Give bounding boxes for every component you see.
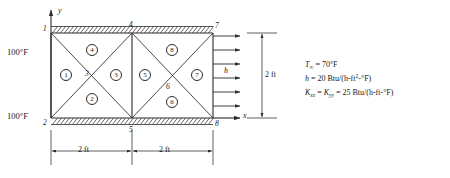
element-3-text: 3 — [114, 71, 118, 79]
convection-exponent: 2 — [356, 73, 359, 79]
y-axis-label: y — [58, 7, 62, 15]
node-label-3: 3 — [85, 70, 89, 78]
x-axis-label: x — [243, 112, 247, 120]
element-5-text: 5 — [143, 71, 147, 79]
element-label-3: 3 — [110, 69, 122, 81]
dimension-label-bottom-right: 2 ft — [159, 146, 170, 154]
left-top-temperature-label: 100°F — [7, 48, 28, 57]
node-label-5: 5 — [129, 126, 133, 134]
bottom-hatched-boundary — [51, 118, 214, 125]
convection-coefficient-label: h — [224, 67, 228, 75]
convection-symbol: h — [305, 74, 309, 83]
element-label-5: 5 — [139, 69, 151, 81]
property-thermal-conductivity: Kxx = Kyy = 25 Btu/(h-ft-°F) — [305, 86, 393, 100]
conductivity-x-subscript: xx — [310, 92, 315, 98]
node-label-6: 6 — [166, 83, 170, 91]
convection-tail: -°F) — [358, 74, 371, 83]
properties-text-block: T∞ = 70°F h = 20 Btu/(h-ft2-°F) Kxx = Ky… — [305, 58, 393, 100]
element-label-1: 1 — [60, 69, 72, 81]
node-label-7: 7 — [215, 22, 219, 30]
left-bottom-temperature-label: 100°F — [7, 112, 28, 121]
conductivity-value: = 25 Btu/(h-ft-°F) — [336, 88, 393, 97]
node-label-2: 2 — [43, 119, 47, 127]
element-label-2: 2 — [86, 93, 98, 105]
node-label-4: 4 — [129, 21, 133, 29]
node-label-1: 1 — [43, 25, 47, 33]
convection-value: = 20 Btu/(h-ft — [311, 74, 356, 83]
element-label-4: 4 — [86, 44, 98, 56]
node-label-8: 8 — [215, 120, 219, 128]
element-6-text: 6 — [170, 98, 174, 106]
element-7-text: 7 — [195, 71, 199, 79]
element-8-text: 8 — [170, 46, 174, 54]
mesh-outline — [51, 33, 213, 118]
element-label-6: 6 — [166, 96, 178, 108]
element-label-8: 8 — [166, 44, 178, 56]
ambient-temp-value: = 70°F — [315, 60, 337, 69]
ambient-temp-subscript: ∞ — [309, 64, 313, 70]
bottom-dimensions — [51, 130, 213, 165]
element-1-text: 1 — [64, 71, 68, 79]
conductivity-y-subscript: yy — [329, 92, 334, 98]
element-4-text: 4 — [90, 46, 94, 54]
element-2-text: 2 — [90, 95, 94, 103]
heat-transfer-figure: y x 100°F 100°F h 1 2 3 4 5 6 7 8 1 2 3 … — [0, 0, 450, 178]
element-label-7: 7 — [191, 69, 203, 81]
dimension-label-bottom-left: 2 ft — [78, 146, 89, 154]
dimension-label-right-height: 2 ft — [265, 71, 276, 79]
property-ambient-temperature: T∞ = 70°F — [305, 58, 393, 72]
conductivity-equals: = — [317, 88, 322, 97]
property-convection-coefficient: h = 20 Btu/(h-ft2-°F) — [305, 72, 393, 86]
